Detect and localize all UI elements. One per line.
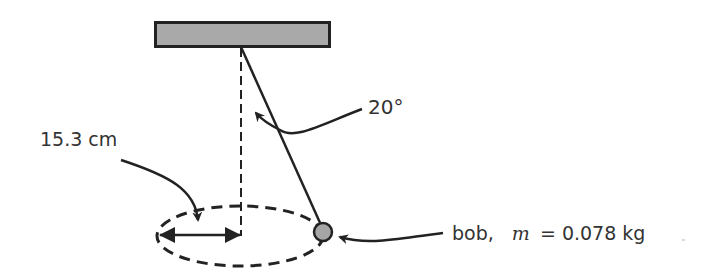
ceiling-support	[156, 23, 330, 47]
bob-leader-arrow	[340, 233, 443, 241]
string	[241, 47, 321, 225]
mass-symbol: m	[512, 222, 530, 244]
conical-pendulum-diagram: 15.3 cm 20° bob, m = 0.078 kg	[0, 0, 728, 278]
bob-name: bob,	[452, 222, 494, 244]
radius-leader-arrow	[121, 160, 198, 220]
mass-value: = 0.078 kg	[540, 222, 645, 244]
angle-leader-arrow	[256, 109, 362, 133]
bob	[314, 223, 332, 241]
bob-label: bob, m = 0.078 kg	[452, 222, 645, 244]
angle-label: 20°	[368, 95, 403, 119]
radius-label: 15.3 cm	[40, 128, 117, 150]
